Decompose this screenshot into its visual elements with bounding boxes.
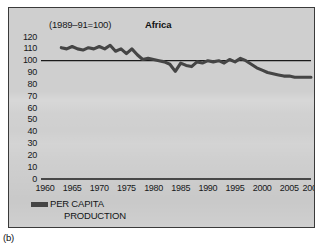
plot-area <box>9 8 315 228</box>
figure-panel: (1989–91=100) Africa 1201101009080706050… <box>0 0 324 247</box>
legend-label-line-1: PER CAPITA <box>50 198 104 209</box>
chart-frame: (1989–91=100) Africa 1201101009080706050… <box>8 7 315 228</box>
panel-label: (b) <box>3 232 14 243</box>
legend-swatch-per-capita-production <box>31 202 48 207</box>
legend-label-line-2: PRODUCTION <box>64 210 126 221</box>
